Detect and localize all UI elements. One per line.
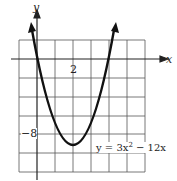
right-arrow-icon	[111, 22, 119, 33]
x-axis-label: x	[166, 54, 172, 65]
graph-canvas	[0, 0, 177, 181]
left-arrow-icon	[28, 22, 36, 33]
y-axis-label: y	[33, 2, 39, 13]
equation-label: y = 3x2 − 12x	[96, 142, 166, 153]
y-tick-label: −8	[21, 128, 37, 139]
x-tick-label: 2	[70, 64, 77, 75]
axes	[11, 10, 168, 180]
